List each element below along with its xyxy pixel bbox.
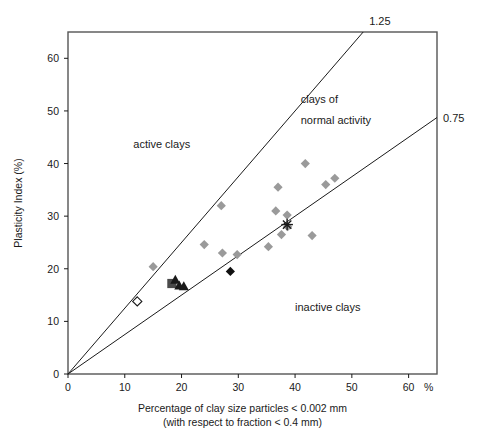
y-axis-title: Plasticity Index (%) [12, 158, 24, 247]
x-tick-label-30: 30 [232, 381, 244, 393]
y-tick-label-40: 40 [47, 158, 59, 170]
x-tick-label-0: 0 [65, 381, 71, 393]
region-label-clays-of-normal-activity-line2: normal activity [301, 114, 372, 126]
activity-line-label-0.75: 0.75 [443, 112, 464, 124]
plasticity-activity-chart: 0102030405060%01020304050601.250.75activ… [0, 0, 489, 446]
y-tick-label-30: 30 [47, 210, 59, 222]
y-tick-label-50: 50 [47, 105, 59, 117]
y-tick-label-60: 60 [47, 52, 59, 64]
x-tick-label-20: 20 [176, 381, 188, 393]
x-axis-unit-symbol: % [424, 381, 433, 393]
x-axis-subtitle: (with respect to fraction < 0.4 mm) [163, 416, 322, 428]
activity-chart-figure: 0102030405060%01020304050601.250.75activ… [0, 0, 489, 446]
data-point-cross-marker-0 [281, 219, 293, 231]
x-tick-label-40: 40 [289, 381, 301, 393]
y-tick-label-0: 0 [53, 368, 59, 380]
x-axis-title: Percentage of clay size particles < 0.00… [138, 402, 347, 414]
plot-area-border [68, 32, 437, 374]
activity-line-label-1.25: 1.25 [369, 15, 390, 27]
x-tick-label-50: 50 [346, 381, 358, 393]
region-label-clays-of-normal-activity-line1: clays of [301, 93, 339, 105]
x-tick-label-60: 60 [403, 381, 415, 393]
x-tick-label-10: 10 [119, 381, 131, 393]
region-label-inactive-clays: inactive clays [295, 301, 361, 313]
region-label-active-clays: active clays [133, 138, 190, 150]
y-tick-label-20: 20 [47, 263, 59, 275]
y-tick-label-10: 10 [47, 315, 59, 327]
